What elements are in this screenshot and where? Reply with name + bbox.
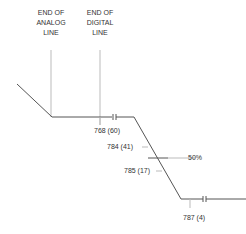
- analog-end-header: END OF ANALOG LINE: [26, 8, 76, 38]
- marker-label-784: 784 (41): [107, 142, 133, 152]
- analog-header-line1: END OF: [26, 8, 76, 18]
- marker-label-768: 768 (60): [94, 126, 120, 136]
- signal-path-upper: [17, 84, 112, 117]
- marker-label-787: 787 (4): [183, 213, 205, 223]
- digital-end-header: END OF DIGITAL LINE: [75, 8, 125, 38]
- digital-header-line1: END OF: [75, 8, 125, 18]
- marker-label-785: 785 (17): [124, 166, 150, 176]
- analog-header-line3: LINE: [26, 28, 76, 38]
- analog-header-line2: ANALOG: [26, 18, 76, 28]
- digital-header-line3: LINE: [75, 28, 125, 38]
- threshold-label: 50%: [188, 153, 202, 163]
- digital-header-line2: DIGITAL: [75, 18, 125, 28]
